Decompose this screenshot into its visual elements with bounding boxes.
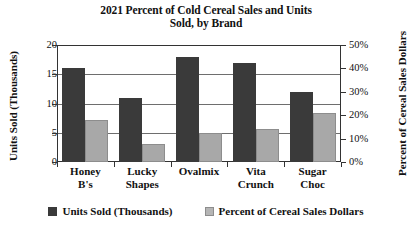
- x-axis-label-line: Lucky: [114, 165, 170, 178]
- y-axis-left-ticks: 20 15 10 5 0: [12, 45, 57, 162]
- bar-group: [233, 45, 279, 162]
- bar-group: [119, 45, 165, 162]
- bar-percent-sales: [199, 133, 222, 162]
- x-axis-label: HoneyB's: [57, 165, 113, 190]
- legend-label-percent: Percent of Cereal Sales Dollars: [219, 205, 364, 217]
- y2-tick-label-10: 10%: [349, 134, 389, 144]
- x-axis-label: SugarChoc: [285, 165, 341, 190]
- x-axis-label-line: Ovalmix: [171, 165, 227, 178]
- legend-item-percent-sales: Percent of Cereal Sales Dollars: [205, 205, 364, 217]
- bar-units-sold: [62, 68, 85, 162]
- x-axis-label-line: Shapes: [114, 178, 170, 191]
- legend-label-units: Units Sold (Thousands): [62, 205, 172, 217]
- y-tick-label-20: 20: [17, 40, 57, 50]
- y2-tick-label-30: 30%: [349, 87, 389, 97]
- bar-units-sold: [176, 57, 199, 162]
- x-axis-label-line: Sugar: [285, 165, 341, 178]
- y2-tick-mark-10: [341, 139, 346, 140]
- y2-tick-mark-30: [341, 92, 346, 93]
- chart-title: 2021 Percent of Cold Cereal Sales and Un…: [60, 4, 352, 30]
- legend-item-units-sold: Units Sold (Thousands): [48, 205, 172, 217]
- y-tick-label-0: 0: [17, 157, 57, 167]
- y-tick-label-10: 10: [17, 99, 57, 109]
- x-axis-category-labels: HoneyB'sLuckyShapesOvalmixVitaCrunchSuga…: [57, 165, 341, 190]
- y-tick-label-5: 5: [17, 128, 57, 138]
- y2-tick-label-0: 0%: [349, 157, 389, 167]
- x-axis-label-line: B's: [57, 178, 113, 191]
- bar-percent-sales: [85, 120, 108, 162]
- legend-swatch-icon-percent: [205, 207, 214, 216]
- legend-swatch-icon-units: [48, 207, 57, 216]
- chart-legend: Units Sold (Thousands) Percent of Cereal…: [0, 205, 412, 217]
- bar-percent-sales: [256, 129, 279, 162]
- y2-tick-mark-40: [341, 68, 346, 69]
- y-axis-right-title: Percent of Cereal Sales Dollars: [396, 36, 408, 176]
- y-tick-label-15: 15: [17, 69, 57, 79]
- bar-group: [290, 45, 336, 162]
- x-axis-label: VitaCrunch: [228, 165, 284, 190]
- y2-tick-mark-20: [341, 115, 346, 116]
- bar-group: [62, 45, 108, 162]
- bar-units-sold: [233, 63, 256, 162]
- bar-percent-sales: [142, 144, 165, 162]
- chart-title-line-2: Sold, by Brand: [170, 17, 242, 29]
- y2-tick-mark-50: [341, 45, 346, 46]
- bar-group: [176, 45, 222, 162]
- x-axis-label-line: Crunch: [228, 178, 284, 191]
- x-axis-label: LuckyShapes: [114, 165, 170, 190]
- y-axis-right-ticks: 50% 40% 30% 20% 10% 0%: [341, 45, 386, 162]
- x-axis-label: Ovalmix: [171, 165, 227, 190]
- bar-units-sold: [119, 98, 142, 162]
- x-axis-label-line: Honey: [57, 165, 113, 178]
- bar-percent-sales: [313, 113, 336, 162]
- chart-title-line-1: 2021 Percent of Cold Cereal Sales and Un…: [100, 4, 312, 16]
- x-axis-label-line: Vita: [228, 165, 284, 178]
- y2-tick-label-50: 50%: [349, 40, 389, 50]
- x-axis-label-line: Choc: [285, 178, 341, 191]
- y2-tick-label-40: 40%: [349, 63, 389, 73]
- bar-groups: [57, 45, 341, 162]
- bar-units-sold: [290, 92, 313, 162]
- y2-tick-label-20: 20%: [349, 110, 389, 120]
- x-tick-mark: [341, 162, 342, 167]
